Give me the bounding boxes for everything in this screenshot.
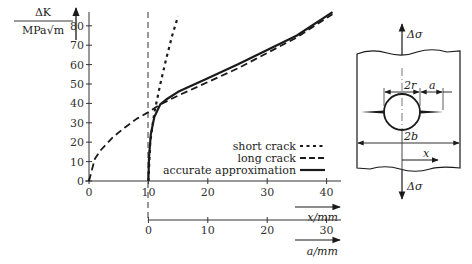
crack-stress-intensity-chart: ΔK MPa√m 01020304050607080 010203040 x/m… (0, 0, 472, 264)
y-tick-label: 0 (77, 175, 84, 188)
bottom-load-label: Δσ (406, 180, 423, 193)
y-tick-label: 60 (70, 59, 84, 72)
y-tick-label: 20 (70, 136, 84, 149)
y-label-numerator: ΔK (35, 6, 52, 19)
a-tick-label: 10 (201, 224, 215, 237)
crack-length-label: a (429, 79, 436, 92)
plate-width-label: 2b (403, 130, 418, 143)
y-label-denominator: MPa√m (22, 24, 65, 37)
y-tick-label: 70 (70, 39, 84, 52)
y-axis: 01020304050607080 (70, 12, 92, 188)
top-load-label: Δσ (406, 28, 423, 41)
y-tick-label: 40 (70, 97, 84, 110)
a-axis-label: a/mm (307, 245, 338, 258)
y-tick-label: 30 (70, 117, 84, 130)
x-tick-label: 30 (260, 186, 274, 199)
x-axis-label: x/mm (307, 211, 338, 224)
x-tick-label: 0 (86, 186, 93, 199)
diagram-x-label: x (423, 147, 430, 160)
x-tick-label: 40 (320, 186, 334, 199)
a-tick-label: 20 (260, 224, 274, 237)
left-crack (361, 111, 384, 114)
y-tick-label: 10 (70, 156, 84, 169)
x-axis: 010203040 x/mm (85, 178, 341, 224)
legend: short crack long crack accurate approxim… (163, 140, 325, 177)
y-tick-label: 80 (70, 20, 84, 33)
a-tick-label: 0 (145, 224, 152, 237)
y-tick-label: 50 (70, 78, 84, 91)
specimen-diagram: Δσ 2r a 2b x Δσ (357, 24, 460, 199)
y-axis-label: ΔK MPa√m (14, 6, 76, 40)
hole-diameter-label: 2r (403, 79, 417, 92)
legend-accurate-label: accurate approximation (163, 164, 296, 177)
x-tick-label: 20 (201, 186, 215, 199)
right-crack (420, 111, 443, 114)
plate-outline (357, 50, 460, 172)
a-tick-label: 30 (320, 224, 334, 237)
